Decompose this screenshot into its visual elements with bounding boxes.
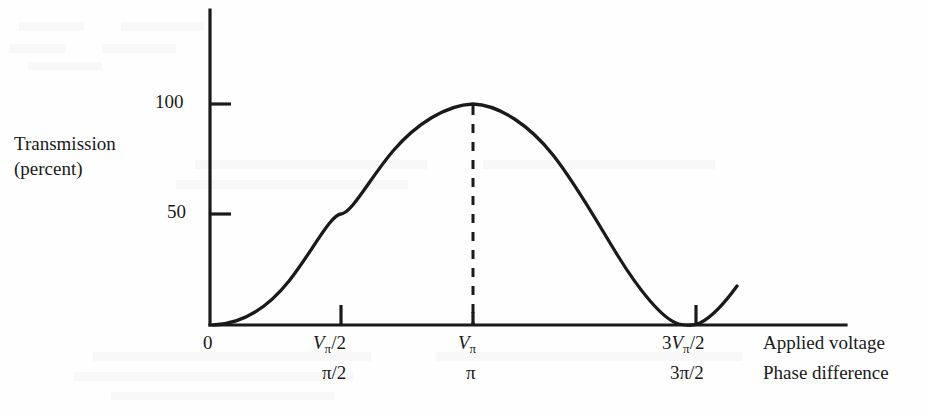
x-tick-label-origin: 0 [203, 333, 213, 353]
y-axis-label: Transmission (percent) [14, 132, 116, 181]
y-axis-label-line1: Transmission [14, 132, 116, 157]
vpi-half-suffix: /2 [331, 332, 346, 353]
vpi-symbol: V [458, 332, 470, 353]
x-tick-label-phase-3pi-half: 3π/2 [670, 363, 704, 383]
x-tick-label-voltage-3vpi-half: 3Vπ/2 [662, 333, 704, 355]
y-axis-label-line2: (percent) [14, 157, 116, 182]
y-tick-label-50: 50 [167, 202, 186, 222]
y-tick-label-100: 100 [155, 92, 184, 112]
three-vpi-half-prefix: 3 [662, 332, 672, 353]
figure-root: Transmission (percent) 100 50 0 Vπ/2 π/2… [0, 0, 928, 414]
three-vpi-half-suffix: /2 [690, 332, 705, 353]
x-axis-name-applied-voltage: Applied voltage [763, 333, 885, 353]
vpi-half-symbol: V [313, 332, 325, 353]
x-axis-name-phase-difference: Phase difference [763, 363, 889, 383]
x-tick-label-voltage-vpi: Vπ [458, 333, 476, 355]
x-tick-label-voltage-vpi-half: Vπ/2 [313, 333, 346, 355]
transmission-curve [213, 104, 737, 325]
x-tick-label-phase-pi: π [466, 363, 476, 383]
three-vpi-half-symbol: V [672, 332, 684, 353]
vpi-subscript: π [470, 341, 477, 356]
x-tick-label-phase-pi-half: π/2 [322, 363, 346, 383]
